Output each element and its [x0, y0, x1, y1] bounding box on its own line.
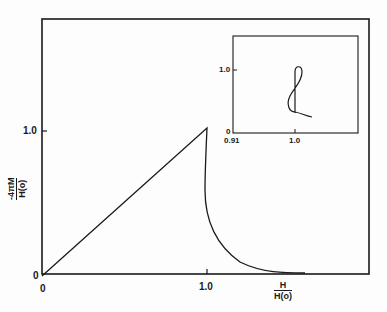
inset-x-tick-label-0: 0.91	[224, 136, 240, 145]
main-curve	[42, 128, 305, 276]
inset-curve	[288, 67, 312, 117]
chart-figure: 1.0 0 0 1.0 H H(o) -4πM H(o) 1.0 0 0.91 …	[0, 0, 387, 312]
x-axis-label: H H(o)	[274, 280, 292, 301]
y-axis-label-numerator: -4πM	[6, 178, 16, 200]
inset-y-tick-label-0: 0	[226, 127, 230, 136]
y-tick-label-1: 1.0	[23, 125, 37, 136]
y-axis-label-denominator: H(o)	[17, 180, 27, 198]
inset-y-tick-label-1: 1.0	[219, 65, 230, 74]
y-tick-label-0: 0	[33, 270, 39, 281]
chart-canvas	[0, 0, 387, 312]
x-axis-label-numerator: H	[280, 280, 287, 290]
x-tick-label-1: 1.0	[199, 281, 213, 292]
x-axis-label-denominator: H(o)	[274, 291, 292, 301]
plot-frame	[42, 19, 369, 274]
x-tick-label-0: 0	[40, 283, 46, 294]
y-axis-label: -4πM H(o)	[6, 178, 27, 200]
inset-x-tick-label-1: 1.0	[289, 136, 300, 145]
